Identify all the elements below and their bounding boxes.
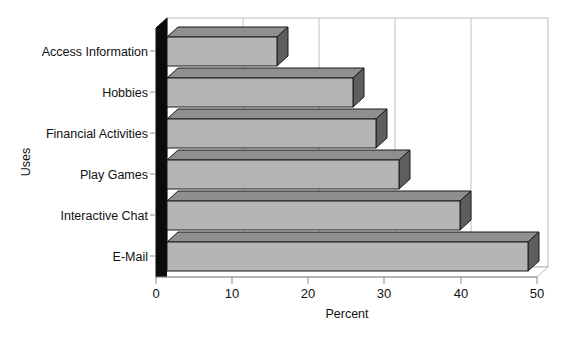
category-label-e-mail: E-Mail	[113, 250, 148, 264]
x-tick-label-30: 30	[377, 286, 391, 301]
y-axis-wall	[156, 18, 167, 277]
chart-canvas: 0 10 20 30 40 50 Access Information Hobb…	[0, 0, 578, 338]
bar-hobbies	[167, 68, 364, 107]
x-tick-label-40: 40	[454, 286, 468, 301]
x-axis-ticks	[156, 277, 537, 284]
bar-access-information	[167, 27, 288, 66]
x-tick-label-0: 0	[152, 286, 159, 301]
origin-wedge	[156, 267, 167, 277]
x-axis-title: Percent	[325, 307, 369, 321]
bar-financial-activities	[167, 109, 387, 148]
category-label-interactive-chat: Interactive Chat	[60, 209, 148, 223]
x-tick-label-10: 10	[225, 286, 239, 301]
category-label-access-information: Access Information	[42, 45, 148, 59]
bar-interactive-chat	[167, 191, 471, 230]
category-label-play-games: Play Games	[80, 168, 148, 182]
bar-chart: 0 10 20 30 40 50 Access Information Hobb…	[0, 0, 578, 338]
y-axis-ticks	[150, 51, 156, 256]
x-tick-label-20: 20	[301, 286, 315, 301]
category-label-financial-activities: Financial Activities	[46, 127, 148, 141]
y-axis-title: Uses	[19, 148, 33, 176]
category-label-hobbies: Hobbies	[102, 86, 148, 100]
bar-e-mail	[167, 232, 539, 271]
x-tick-label-50: 50	[530, 286, 544, 301]
bar-play-games	[167, 150, 410, 189]
